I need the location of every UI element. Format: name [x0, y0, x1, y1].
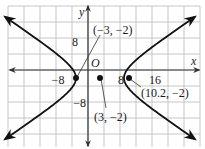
x-tick-8: 8 — [118, 73, 124, 87]
x-tick-16: 16 — [149, 73, 161, 87]
hyperbola-left-branch — [5, 17, 76, 139]
coordinate-plane: y x O 8 −8 −8 8 16 (−3, −2) (3, −2) (10.… — [0, 0, 205, 149]
point-focus — [126, 75, 132, 81]
origin-label: O — [91, 56, 100, 70]
point-center — [97, 75, 103, 81]
focus-label: (10.2, −2) — [141, 86, 189, 100]
x-axis-label: x — [190, 54, 197, 68]
hyperbola-graph: y x O 8 −8 −8 8 16 (−3, −2) (3, −2) (10.… — [0, 0, 205, 149]
leader-line-center — [101, 79, 106, 108]
center-label: (3, −2) — [94, 110, 127, 124]
y-tick-8: 8 — [72, 35, 78, 49]
y-tick-neg8: −8 — [73, 96, 86, 110]
x-tick-neg8: −8 — [52, 73, 65, 87]
point-vertex — [73, 75, 79, 81]
vertex-label: (−3, −2) — [93, 23, 133, 37]
y-axis-label: y — [78, 5, 85, 19]
